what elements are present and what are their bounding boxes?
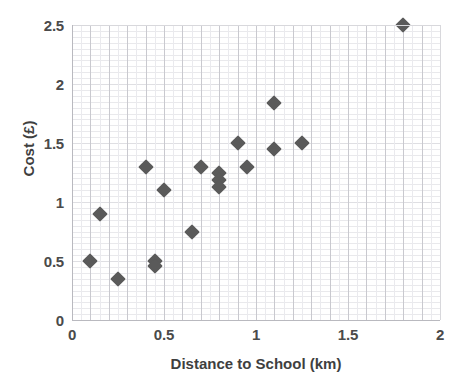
gridline-horizontal [72,220,440,221]
x-axis-title: Distance to School (km) [72,355,440,372]
gridline-horizontal [72,161,440,162]
plot-right-border [440,25,441,320]
gridline-horizontal [72,208,440,209]
gridline-horizontal [72,102,440,103]
gridline-vertical [385,25,386,320]
gridline-vertical [265,25,266,320]
gridline-horizontal [72,90,440,91]
minor-vertical-gridlines [72,25,440,320]
gridline-horizontal [72,37,440,38]
gridline-vertical [339,25,340,320]
gridline-horizontal [72,43,440,44]
gridline-vertical [311,25,312,320]
gridline-vertical [348,25,349,320]
data-point [156,182,172,198]
gridline-horizontal [72,72,440,73]
major-vertical-gridlines [72,25,440,320]
gridline-vertical [357,25,358,320]
data-point [294,135,310,151]
gridline-horizontal [72,143,440,144]
x-axis-line [72,320,440,321]
gridline-vertical [274,25,275,320]
gridline-vertical [412,25,413,320]
gridline-vertical [366,25,367,320]
gridline-horizontal [72,66,440,67]
gridline-horizontal [72,308,440,309]
gridline-horizontal [72,49,440,50]
gridline-horizontal [72,78,440,79]
data-point [92,206,108,222]
gridline-horizontal [72,31,440,32]
gridline-horizontal [72,285,440,286]
plot-top-border [72,25,440,26]
gridline-vertical [81,25,82,320]
data-point [239,159,255,175]
y-axis-line [72,25,73,320]
gridline-horizontal [72,167,440,168]
y-tick-label: 0.5 [24,253,64,270]
gridline-horizontal [72,237,440,238]
gridline-horizontal [72,291,440,292]
gridline-vertical [164,25,165,320]
gridline-horizontal [72,131,440,132]
gridline-horizontal [72,137,440,138]
gridline-vertical [136,25,137,320]
gridline-horizontal [72,114,440,115]
gridline-horizontal [72,155,440,156]
data-point [267,141,283,157]
gridline-vertical [100,25,101,320]
gridline-horizontal [72,302,440,303]
gridline-vertical [173,25,174,320]
gridline-vertical [127,25,128,320]
y-axis-title: Cost (£) [20,79,37,219]
gridline-horizontal [72,173,440,174]
gridline-horizontal [72,202,440,203]
gridline-horizontal [72,296,440,297]
gridline-vertical [284,25,285,320]
gridline-vertical [182,25,183,320]
x-tick-label: 1.5 [318,326,378,343]
x-tick-label: 0.5 [134,326,194,343]
gridline-vertical [394,25,395,320]
gridline-horizontal [72,190,440,191]
gridline-horizontal [72,232,440,233]
data-point [193,159,209,175]
horizontal-gridlines [72,25,440,320]
gridline-vertical [403,25,404,320]
gridline-vertical [422,25,423,320]
gridline-horizontal [72,125,440,126]
plot-area [72,25,440,320]
gridline-vertical [256,25,257,320]
x-tick-label: 1 [226,326,286,343]
x-tick-label: 0 [42,326,102,343]
gridline-horizontal [72,149,440,150]
data-point [267,95,283,111]
gridline-horizontal [72,108,440,109]
gridline-horizontal [72,261,440,262]
data-point [83,253,99,269]
data-point [230,135,246,151]
gridline-vertical [302,25,303,320]
gridline-horizontal [72,55,440,56]
gridline-vertical [431,25,432,320]
gridline-vertical [155,25,156,320]
gridline-horizontal [72,255,440,256]
gridline-horizontal [72,273,440,274]
gridline-vertical [238,25,239,320]
scatter-chart: 00.511.522.5 00.511.52 Distance to Schoo… [0,0,469,387]
gridline-horizontal [72,267,440,268]
x-axis-ticks: 00.511.52 [72,326,440,348]
y-tick-label: 2.5 [24,17,64,34]
gridline-horizontal [72,249,440,250]
gridline-horizontal [72,84,440,85]
gridline-horizontal [72,314,440,315]
gridline-vertical [90,25,91,320]
gridline-vertical [192,25,193,320]
gridline-horizontal [72,60,440,61]
gridline-vertical [109,25,110,320]
gridline-vertical [228,25,229,320]
gridline-vertical [376,25,377,320]
gridline-vertical [293,25,294,320]
gridline-horizontal [72,178,440,179]
gridline-vertical [320,25,321,320]
